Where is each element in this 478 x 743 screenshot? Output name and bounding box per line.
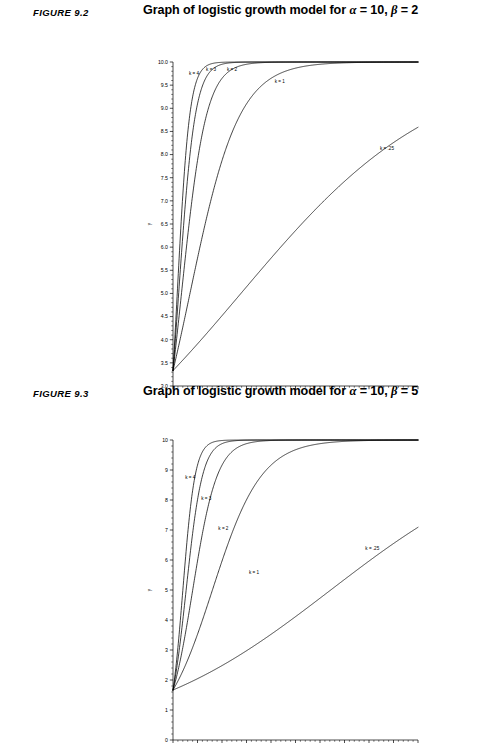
y-tick-label: 6.5	[161, 221, 168, 227]
figure-9-3-plot: 012345678910012345678910xyk = 4k = 3k = …	[0, 405, 478, 743]
curve-k-4	[173, 440, 418, 690]
figure-9-3-title: Graph of logistic growth model for α = 1…	[143, 384, 418, 399]
figure-9-2-svg: 3.03.54.04.55.05.56.06.57.07.58.08.59.09…	[0, 24, 478, 390]
curve-label-4: k = .25	[380, 146, 394, 151]
curve-label-0: k = 4	[185, 475, 196, 480]
y-tick-label: 5	[165, 587, 168, 593]
y-tick-label: 4.0	[161, 337, 168, 343]
y-tick-label: 8	[165, 497, 168, 503]
figure-9-3-svg: 012345678910012345678910xyk = 4k = 3k = …	[0, 405, 478, 743]
curve-k-1	[173, 440, 418, 690]
y-tick-label: 8.0	[161, 151, 168, 157]
curve-k-25	[173, 527, 418, 690]
figure-9-3-title-beta-value: = 5	[397, 384, 418, 398]
curve-label-2: k = 2	[227, 67, 238, 72]
figure-9-2-block: FIGURE 9.2 Graph of logistic growth mode…	[0, 0, 478, 390]
y-tick-label: 6	[165, 557, 168, 563]
curve-k-1	[173, 62, 418, 371]
curve-k-2	[173, 62, 418, 371]
y-tick-label: 3	[165, 647, 168, 653]
figure-9-2-label: FIGURE 9.2	[33, 7, 89, 18]
y-tick-label: 7	[165, 527, 168, 533]
y-tick-label: 8.5	[161, 128, 168, 134]
curve-k-2	[173, 440, 418, 690]
curve-k-4	[173, 62, 418, 371]
figure-9-3-block: FIGURE 9.3 Graph of logistic growth mode…	[0, 381, 478, 743]
curve-label-1: k = 3	[206, 67, 217, 72]
y-tick-label: 5.0	[161, 290, 168, 296]
y-tick-label: 0	[165, 737, 168, 743]
figure-9-2-title: Graph of logistic growth model for α = 1…	[143, 3, 418, 18]
figure-9-2-header: FIGURE 9.2 Graph of logistic growth mode…	[0, 0, 478, 24]
y-tick-label: 4.5	[161, 313, 168, 319]
y-axis-title: y	[147, 222, 152, 225]
y-tick-label: 3.5	[161, 360, 168, 366]
figure-9-2-title-beta-value: = 2	[397, 3, 418, 17]
figure-9-3-header: FIGURE 9.3 Graph of logistic growth mode…	[0, 381, 478, 405]
y-tick-label: 9.0	[161, 105, 168, 111]
y-tick-label: 1	[165, 707, 168, 713]
curve-label-0: k = 4	[189, 71, 200, 76]
y-tick-label: 4	[165, 617, 168, 623]
y-tick-label: 9.5	[161, 82, 168, 88]
curve-k-3	[173, 62, 418, 371]
curve-label-4: k = .25	[365, 546, 379, 551]
y-axis-title: y	[147, 588, 152, 591]
curve-k-25	[173, 127, 418, 370]
curve-k-3	[173, 440, 418, 690]
y-tick-label: 9	[165, 467, 168, 473]
figure-9-2-plot: 3.03.54.04.55.05.56.06.57.07.58.08.59.09…	[0, 24, 478, 390]
y-tick-label: 7.5	[161, 175, 168, 181]
curve-label-3: k = 1	[249, 570, 260, 575]
curve-label-3: k = 1	[275, 79, 286, 84]
y-tick-label: 7.0	[161, 198, 168, 204]
y-tick-label: 2	[165, 677, 168, 683]
figure-9-2-title-prefix: Graph of logistic growth model for	[143, 3, 349, 17]
y-tick-label: 10	[162, 437, 168, 443]
y-tick-label: 10.0	[158, 59, 168, 65]
figure-9-3-label: FIGURE 9.3	[33, 388, 89, 399]
figure-9-3-title-prefix: Graph of logistic growth model for	[143, 384, 349, 398]
y-tick-label: 5.5	[161, 267, 168, 273]
y-tick-label: 6.0	[161, 244, 168, 250]
curve-label-2: k = 2	[218, 526, 229, 531]
figure-9-3-title-alpha-value: = 10,	[356, 384, 391, 398]
figure-9-2-title-alpha-value: = 10,	[356, 3, 391, 17]
